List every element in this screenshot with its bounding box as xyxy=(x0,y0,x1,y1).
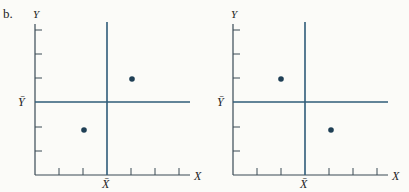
left-x-ticks xyxy=(59,168,179,175)
right-x-ticks xyxy=(257,168,377,175)
right-y-ticks xyxy=(233,30,240,151)
left-plot xyxy=(35,22,190,175)
scatter-plots xyxy=(0,0,409,192)
right-point-upper-left xyxy=(278,76,284,82)
right-point-lower-right xyxy=(328,127,334,133)
left-point-upper-right xyxy=(129,76,135,82)
left-point-lower-left xyxy=(81,127,87,133)
left-y-ticks xyxy=(35,30,42,151)
right-plot xyxy=(233,22,388,175)
